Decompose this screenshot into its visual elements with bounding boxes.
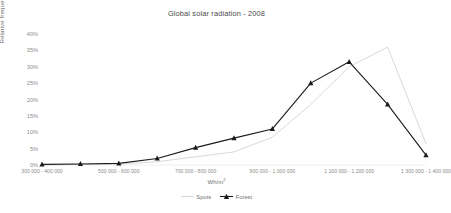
chart-title: Global solar radiation - 2008 [0, 9, 433, 18]
legend-swatch-forest [220, 193, 233, 200]
data-point-marker [347, 59, 352, 64]
x-axis-title: Wh/m2 [0, 177, 433, 185]
legend-item-spots[interactable]: Spots [181, 193, 211, 200]
x-axis-tick-label: 300 000 - 400 000 [21, 168, 62, 174]
y-axis-tick-label: 10% [27, 129, 38, 135]
legend-label: Forest [236, 194, 252, 200]
y-axis-tick-label: 5% [30, 146, 38, 152]
y-axis-tick-label: 35% [27, 47, 38, 53]
legend-label: Spots [196, 194, 211, 200]
y-axis-tick-label: 15% [27, 113, 38, 119]
x-axis-tick-label: 1 100 000 - 1 200 000 [324, 168, 374, 174]
series-canvas [42, 34, 426, 165]
legend-swatch-spots [181, 193, 194, 200]
legend-item-forest[interactable]: Forest [220, 193, 252, 200]
chart-legend: SpotsForest [0, 193, 433, 200]
x-axis-tick-label: 700 000 - 800 000 [175, 168, 216, 174]
y-axis-tick-label: 30% [27, 64, 38, 70]
y-axis-tick-label: 40% [27, 31, 38, 37]
y-axis-tick-label: 20% [27, 97, 38, 103]
y-axis-tick-label: 25% [27, 80, 38, 86]
x-axis-tick-label: 500 000 - 600 000 [98, 168, 139, 174]
series-line-spots [42, 47, 426, 165]
x-axis-tick-label: 900 000 - 1 000 000 [250, 168, 296, 174]
plot-area [42, 34, 426, 165]
x-axis-tick-label: 1 300 000 - 1 400 000 [401, 168, 451, 174]
series-line-forest [42, 62, 426, 165]
